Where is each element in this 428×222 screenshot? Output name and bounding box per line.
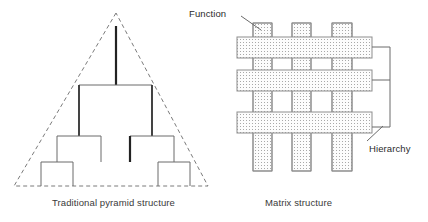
organization-structure-figure	[0, 0, 428, 222]
pyramid-caption: Traditional pyramid structure	[52, 197, 175, 208]
pyramid-diagram	[14, 13, 208, 186]
hierarchy-bar-1	[237, 37, 372, 58]
pyramid-triangle-outline	[14, 13, 208, 186]
hierarchy-label: Hierarchy	[369, 143, 411, 154]
triangle-dashed-path	[14, 13, 208, 186]
hierarchy-bar-3	[237, 112, 372, 133]
hierarchy-bar-2	[237, 70, 372, 91]
function-label: Function	[189, 8, 226, 19]
pyramid-tree	[41, 26, 190, 186]
matrix-hierarchy-bars	[237, 37, 372, 133]
matrix-diagram	[237, 23, 390, 171]
hierarchy-bracket	[372, 47, 390, 127]
matrix-caption: Matrix structure	[265, 197, 332, 208]
